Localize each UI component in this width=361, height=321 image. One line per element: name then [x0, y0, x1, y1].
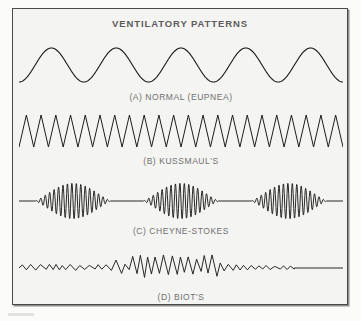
waveform-biots	[19, 247, 343, 291]
trace-label-kussmauls: (B) KUSSMAUL'S	[19, 156, 343, 166]
trace-block-biots: (D) BIOT'S	[19, 247, 343, 302]
trace-label-biots: (D) BIOT'S	[19, 292, 343, 302]
waveform-cheyne-stokes	[19, 179, 343, 225]
waveform-normal-eupnea	[19, 39, 343, 91]
scan-artifact	[8, 313, 34, 316]
waveform-kussmauls	[19, 109, 343, 155]
trace-label-normal: (A) NORMAL (EUPNEA)	[19, 92, 343, 102]
trace-label-cheyne-stokes: (C) CHEYNE-STOKES	[19, 226, 343, 236]
figure-panel: VENTILATORY PATTERNS (A) NORMAL (EUPNEA)…	[12, 8, 348, 305]
page-title: VENTILATORY PATTERNS	[13, 18, 347, 29]
ventilatory-patterns-figure: VENTILATORY PATTERNS (A) NORMAL (EUPNEA)…	[0, 0, 361, 321]
trace-block-cheyne-stokes: (C) CHEYNE-STOKES	[19, 179, 343, 236]
trace-block-normal: (A) NORMAL (EUPNEA)	[19, 39, 343, 102]
trace-block-kussmauls: (B) KUSSMAUL'S	[19, 109, 343, 166]
